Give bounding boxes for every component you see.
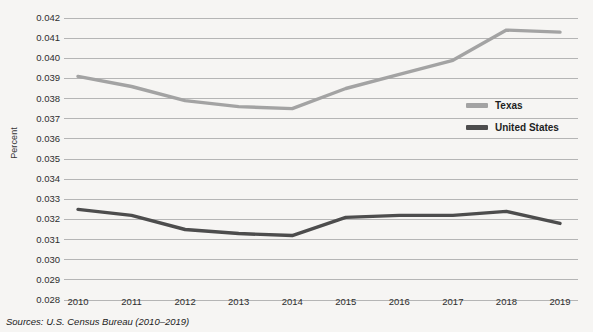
y-tick-label: 0.039 bbox=[16, 73, 60, 83]
x-tick-label: 2013 bbox=[214, 296, 264, 307]
source-note: Sources: U.S. Census Bureau (2010–2019) bbox=[6, 316, 189, 327]
chart-figure: Percent 0.0420.0410.0400.0390.0380.0370.… bbox=[0, 0, 593, 332]
y-tick-label: 0.030 bbox=[16, 255, 60, 265]
x-tick-label: 2011 bbox=[107, 296, 157, 307]
line-chart: Percent 0.0420.0410.0400.0390.0380.0370.… bbox=[0, 0, 593, 310]
y-tick-label: 0.038 bbox=[16, 94, 60, 104]
x-tick-label: 2019 bbox=[535, 296, 585, 307]
x-tick-label: 2012 bbox=[160, 296, 210, 307]
legend-swatch-texas bbox=[466, 103, 488, 108]
legend-swatch-united-states bbox=[466, 125, 488, 130]
x-tick-label: 2010 bbox=[53, 296, 103, 307]
y-tick-label: 0.041 bbox=[16, 33, 60, 43]
y-tick-label: 0.042 bbox=[16, 13, 60, 23]
legend-item-united-states[interactable]: United States bbox=[466, 116, 586, 138]
x-tick-label: 2018 bbox=[481, 296, 531, 307]
y-tick-label: 0.037 bbox=[16, 114, 60, 124]
y-tick-label: 0.031 bbox=[16, 235, 60, 245]
x-tick-label: 2015 bbox=[321, 296, 371, 307]
chart-legend: Texas United States bbox=[466, 94, 586, 138]
x-tick-label: 2014 bbox=[267, 296, 317, 307]
y-tick-label: 0.040 bbox=[16, 53, 60, 63]
x-tick-label: 2017 bbox=[428, 296, 478, 307]
y-tick-label: 0.029 bbox=[16, 275, 60, 285]
gridlines bbox=[64, 18, 578, 300]
series-line-united-states bbox=[78, 209, 560, 235]
legend-label-united-states: United States bbox=[495, 122, 559, 133]
y-tick-label: 0.035 bbox=[16, 154, 60, 164]
y-tick-label: 0.033 bbox=[16, 194, 60, 204]
y-tick-label: 0.034 bbox=[16, 174, 60, 184]
x-tick-label: 2016 bbox=[374, 296, 424, 307]
legend-label-texas: Texas bbox=[495, 100, 523, 111]
y-tick-label: 0.036 bbox=[16, 134, 60, 144]
y-axis-tick-labels: 0.0420.0410.0400.0390.0380.0370.0360.035… bbox=[16, 0, 60, 310]
plot-canvas bbox=[0, 0, 593, 310]
y-tick-label: 0.032 bbox=[16, 214, 60, 224]
legend-item-texas[interactable]: Texas bbox=[466, 94, 586, 116]
